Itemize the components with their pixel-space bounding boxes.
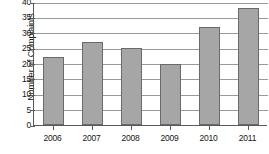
y-axis-tick-label: 25 — [12, 44, 31, 53]
bar-chart: Number of Complaints 0510152025303540 20… — [0, 0, 269, 154]
x-axis-tick-mark — [131, 126, 132, 130]
x-axis-tick-label: 2007 — [75, 133, 109, 143]
gridline — [34, 95, 268, 96]
x-axis-tick-label: 2006 — [36, 133, 70, 143]
x-axis-tick-mark — [209, 126, 210, 130]
y-axis-tick-mark — [31, 49, 35, 50]
y-axis-tick-label: 40 — [12, 0, 31, 7]
x-axis-tick-label: 2008 — [114, 133, 148, 143]
bar-2007 — [82, 42, 103, 125]
x-axis-tick-mark — [170, 126, 171, 130]
bar-2010 — [199, 27, 220, 125]
y-axis-tick-mark — [31, 110, 35, 111]
gridline — [34, 3, 268, 4]
y-axis-tick-mark — [31, 79, 35, 80]
y-axis-tick-label: 20 — [12, 60, 31, 69]
gridline — [34, 49, 268, 50]
y-axis-tick-mark — [31, 18, 35, 19]
gridline — [34, 79, 268, 80]
bar-2009 — [160, 64, 181, 126]
y-axis-tick-mark — [31, 95, 35, 96]
x-axis-tick-mark — [92, 126, 93, 130]
x-axis-tick-mark — [248, 126, 249, 130]
y-axis-tick-label: 5 — [12, 106, 31, 115]
gridline — [34, 126, 268, 127]
y-axis-tick-mark — [31, 3, 35, 4]
y-axis-tick-mark — [31, 33, 35, 34]
y-axis-tick-label: 30 — [12, 29, 31, 38]
gridline — [34, 18, 268, 19]
y-axis-tick-label: 35 — [12, 13, 31, 22]
y-axis-tick-mark — [31, 126, 35, 127]
x-axis-tick-label: 2011 — [231, 133, 265, 143]
gridline — [34, 33, 268, 34]
bar-2006 — [43, 57, 64, 125]
gridline — [34, 110, 268, 111]
y-axis-tick-label: 10 — [12, 90, 31, 99]
x-axis-tick-label: 2010 — [192, 133, 226, 143]
bar-2008 — [121, 48, 142, 125]
x-axis-tick-label: 2009 — [153, 133, 187, 143]
plot-area — [33, 3, 267, 126]
x-axis-tick-mark — [53, 126, 54, 130]
gridline — [34, 64, 268, 65]
y-axis-tick-mark — [31, 64, 35, 65]
bar-2011 — [238, 8, 259, 125]
y-axis-tick-label: 0 — [12, 121, 31, 130]
y-axis-tick-labels: 0510152025303540 — [12, 0, 31, 154]
y-axis-tick-label: 15 — [12, 75, 31, 84]
